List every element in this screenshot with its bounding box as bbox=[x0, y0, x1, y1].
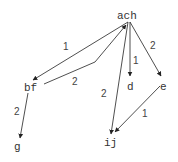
edge-bf-g: 2 bbox=[14, 93, 28, 138]
edge-label-ach-bf: 1 bbox=[63, 41, 69, 52]
node-g: g bbox=[14, 141, 21, 153]
node-bf: bf bbox=[24, 82, 37, 94]
edge-label-e-ij: 1 bbox=[142, 108, 148, 119]
edge-e-ij: 1 bbox=[115, 86, 160, 132]
node-ach: ach bbox=[117, 10, 137, 22]
edge-label-bf-ach: 2 bbox=[72, 76, 78, 87]
edge-ach-e: 2 bbox=[130, 22, 161, 76]
node-d: d bbox=[127, 81, 134, 93]
graph-canvas: 1 2 2 1 2 2 1 ach bf g d e ij bbox=[0, 0, 178, 162]
edge-bf-ach: 2 bbox=[44, 25, 126, 87]
edge-label-bf-g: 2 bbox=[14, 106, 20, 117]
edge-label-ach-d: 1 bbox=[133, 55, 139, 66]
edge-label-ach-ij: 2 bbox=[101, 88, 107, 99]
node-e: e bbox=[160, 81, 167, 93]
edge-ach-bf: 1 bbox=[33, 22, 128, 80]
node-ij: ij bbox=[104, 137, 117, 149]
edge-label-ach-e: 2 bbox=[150, 40, 156, 51]
